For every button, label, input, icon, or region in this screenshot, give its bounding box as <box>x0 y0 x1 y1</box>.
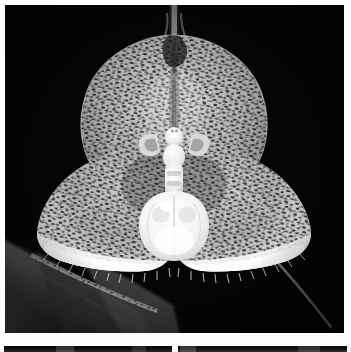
bottom-photo-strip <box>0 346 351 352</box>
photo-plate <box>0 0 351 352</box>
lower-left-photo <box>4 346 172 352</box>
orchid-photograph <box>5 5 344 333</box>
lower-right-photo-highlight-2 <box>298 346 320 352</box>
lower-right-photo-highlight <box>180 346 196 352</box>
lower-left-photo-highlight <box>56 346 74 352</box>
lower-right-photo <box>178 346 347 352</box>
photo-vignette <box>5 5 344 333</box>
lower-left-photo-highlight-2 <box>132 346 146 352</box>
orchid-photograph-canvas <box>5 5 344 333</box>
